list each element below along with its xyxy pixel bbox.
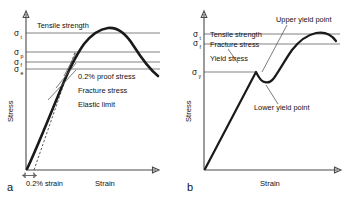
annotation-fracture-stress-a: Fracture stress [78, 86, 128, 95]
sigma-subscript: e [21, 70, 24, 76]
panel-label-b: b [187, 181, 193, 193]
sigma-subscript: t [200, 35, 202, 41]
y-axis-label-a: Stress [6, 100, 15, 122]
sigma-label-tensile-a: σ t [14, 29, 23, 40]
annotation-yield-stress-b: Yield stress [210, 54, 248, 63]
curve-panel-a [27, 28, 158, 169]
sigma-glyph: σ [14, 65, 19, 74]
panel-a-chart: σ t σ p σ f σ e Tensile strength 0.2% pr… [0, 0, 178, 202]
sigma-label-elastic-a: σ e [14, 65, 24, 76]
sigma-glyph: σ [193, 39, 198, 48]
sigma-subscript: f [21, 62, 23, 68]
sigma-glyph: σ [14, 29, 19, 38]
y-axis-label-b: Stress [184, 100, 193, 122]
leader-elastic-limit [48, 70, 76, 100]
x-axis-label-a: Strain [95, 179, 115, 188]
sigma-subscript: p [21, 53, 24, 59]
leader-fracture-stress [56, 63, 76, 88]
annotation-lower-yield-point-b: Lower yield point [254, 103, 309, 112]
sigma-subscript: y [199, 73, 202, 79]
panel-label-a: a [7, 181, 14, 193]
sigma-glyph: σ [192, 68, 197, 77]
offset-strain-label-a: 0.2% strain [26, 179, 63, 188]
annotation-fracture-stress-b: Fracture stress [210, 40, 260, 49]
annotation-proof-stress-a: 0.2% proof stress [78, 72, 136, 81]
sigma-label-yield-b: σ y [192, 68, 202, 79]
panel-a: σ t σ p σ f σ e Tensile strength 0.2% pr… [0, 0, 178, 202]
sigma-subscript: t [21, 34, 23, 40]
sigma-label-fracture-b: σ f [193, 39, 202, 50]
panel-b: σ t σ f σ y Upper yield point Tensile st… [178, 0, 356, 202]
annotation-tensile-strength-a: Tensile strength [37, 21, 89, 30]
annotation-tensile-strength-b: Tensile strength [210, 30, 262, 39]
leader-proof-stress [64, 53, 76, 76]
panel-b-chart: σ t σ f σ y Upper yield point Tensile st… [178, 0, 356, 202]
leader-lower-yield-point [266, 85, 278, 104]
x-axis-label-b: Strain [260, 179, 280, 188]
stress-strain-figure: σ t σ p σ f σ e Tensile strength 0.2% pr… [0, 0, 356, 202]
sigma-subscript: f [200, 44, 202, 50]
sigma-glyph: σ [14, 48, 19, 57]
annotation-elastic-limit-a: Elastic limit [78, 100, 115, 109]
annotation-upper-yield-point-b: Upper yield point [276, 15, 331, 24]
sigma-glyph: σ [193, 30, 198, 39]
